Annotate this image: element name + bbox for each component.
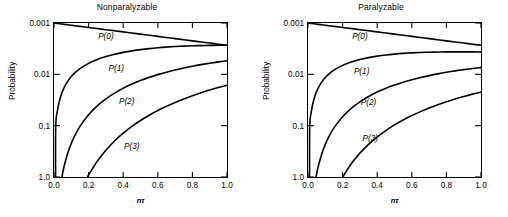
curve-label-p1: P(1) [354, 67, 369, 76]
y-axis-label-right: Probability [262, 62, 271, 100]
panel-title-nonparalyzable: Nonparalyzable [0, 2, 254, 12]
probability-curves [54, 23, 227, 177]
curve-label-p2: P(2) [361, 97, 376, 106]
y-tick-label: 0.01 [34, 70, 50, 79]
curve-p0 [54, 23, 227, 45]
tick-marks [308, 23, 481, 177]
x-tick-label: 0.0 [302, 181, 313, 190]
curve-label-p0: P(0) [98, 32, 113, 41]
x-tick-label: 1.0 [221, 181, 232, 190]
y-tick-label: 0.1 [39, 121, 50, 130]
curve-label-p2: P(2) [119, 97, 134, 106]
y-tick-label: 0.01 [288, 70, 304, 79]
curve-label-p1: P(1) [109, 63, 124, 72]
x-axis-label-left: nτ [53, 196, 228, 205]
curves-paralyzable [308, 23, 481, 177]
plot-area-paralyzable: 1.00.10.010.0010.00.20.40.60.81.0P(0)P(1… [307, 22, 482, 178]
x-tick-label: 0.8 [441, 181, 452, 190]
x-tick-label: 0.2 [337, 181, 348, 190]
y-tick-label: 0.1 [293, 121, 304, 130]
x-tick-label: 0.8 [187, 181, 198, 190]
y-tick-label: 0.001 [30, 19, 51, 28]
x-tick-label: 1.0 [475, 181, 486, 190]
curve-label-p3: P(3) [124, 142, 139, 151]
panel-nonparalyzable: Nonparalyzable Probability 1.00.10.010.0… [0, 0, 254, 217]
plot-area-nonparalyzable: 1.00.10.010.0010.00.20.40.60.81.0P(0)P(1… [53, 22, 228, 178]
curves-nonparalyzable [54, 23, 227, 177]
x-axis-label-right: nτ [307, 196, 482, 205]
y-tick-label: 0.001 [284, 19, 305, 28]
x-tick-label: 0.6 [152, 181, 163, 190]
x-tick-label: 0.4 [371, 181, 382, 190]
curve-p3 [88, 85, 227, 177]
x-tick-label: 0.4 [117, 181, 128, 190]
x-tick-label: 0.2 [83, 181, 94, 190]
curve-p0 [308, 23, 481, 45]
figure-container: Nonparalyzable Probability 1.00.10.010.0… [0, 0, 508, 217]
panel-title-paralyzable: Paralyzable [254, 2, 508, 12]
curve-label-p0: P(0) [352, 31, 367, 40]
y-axis-label-left: Probability [8, 62, 17, 100]
x-tick-label: 0.0 [48, 181, 59, 190]
x-tick-label: 0.6 [406, 181, 417, 190]
probability-curves [308, 23, 481, 177]
curve-label-p3: P(3) [363, 133, 378, 142]
panel-paralyzable: Paralyzable Probability 1.00.10.010.0010… [254, 0, 508, 217]
